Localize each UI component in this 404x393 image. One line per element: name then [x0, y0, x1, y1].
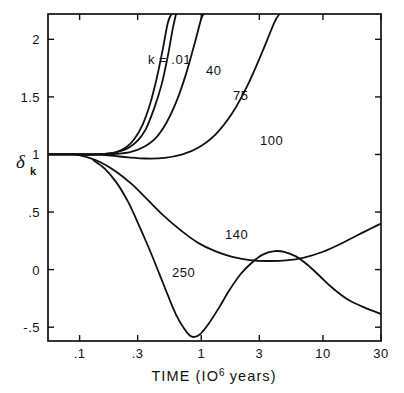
svg-text:k: k — [30, 165, 37, 177]
curve-label: 250 — [172, 265, 195, 280]
curve-40 — [48, 14, 176, 155]
svg-text:δ: δ — [16, 151, 26, 172]
x-tick-label: 1 — [197, 346, 205, 361]
y-tick-label: 1 — [32, 147, 40, 162]
chart-canvas: .1.3131030 21.51.50-.5 k = .014075100140… — [0, 0, 404, 393]
curve-75 — [48, 14, 204, 155]
y-tick-label: 2 — [32, 32, 40, 47]
curve-140 — [48, 154, 381, 261]
x-tick-label: 10 — [315, 346, 330, 361]
curve-label: 100 — [260, 133, 283, 148]
curve-250 — [93, 160, 381, 337]
x-tick-labels: .1.3131030 — [74, 346, 389, 361]
x-tick-label: 3 — [255, 346, 263, 361]
curve-label: 140 — [225, 227, 248, 242]
x-axis-title: TIME (IO6 years) — [151, 367, 276, 384]
figure-container: .1.3131030 21.51.50-.5 k = .014075100140… — [0, 0, 404, 393]
y-tick-label: -.5 — [23, 320, 40, 335]
curve-labels: k = .014075100140250 — [148, 52, 283, 280]
curve-100 — [48, 14, 280, 159]
y-tick-labels: 21.51.50-.5 — [20, 32, 40, 335]
x-tick-label: 30 — [373, 346, 388, 361]
curve-label: k = .01 — [148, 52, 191, 67]
curve-label: 75 — [233, 88, 248, 103]
y-tick-label: 1.5 — [20, 90, 40, 105]
svg-text:TIME (IO6 years): TIME (IO6 years) — [151, 367, 276, 384]
y-tick-label: 0 — [32, 263, 40, 278]
x-tick-label: .3 — [132, 346, 144, 361]
curve-label: 40 — [206, 63, 221, 78]
curve-k-01 — [48, 14, 172, 155]
x-tick-label: .1 — [74, 346, 86, 361]
y-tick-label: .5 — [28, 205, 40, 220]
